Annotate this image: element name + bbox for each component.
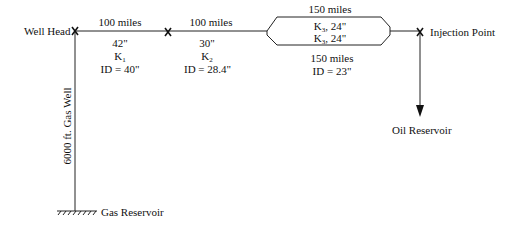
ground-hatch [58,211,96,215]
segment-3-loop-line-1: K3, 24" [298,20,362,32]
gas-reservoir-label: Gas Reservoir [101,206,164,218]
segment-2-id: ID = 28.4" [170,63,245,75]
segment-1-length: 100 miles [90,16,150,28]
arrow-down-icon [416,105,424,117]
segment-3-length-bottom: 150 miles [300,52,364,64]
segment-3-id: ID = 23" [300,65,364,77]
segment-1-id: ID = 40" [85,63,155,75]
injection-point-label: Injection Point [430,26,495,38]
well-head-label: Well Head [24,25,70,37]
segment-3-length-top: 150 miles [298,3,362,15]
segment-2-length: 100 miles [181,16,241,28]
oil-reservoir-label: Oil Reservoir [392,124,452,136]
gas-well-label: 6000 ft. Gas Well [61,81,73,171]
segment-1-od: 42" [90,37,150,49]
x-marker-icon [165,28,171,36]
segment-3-loop-line-2: K3, 24" [298,32,362,44]
segment-2-k: K2 [177,50,237,62]
segment-1-k: K1 [90,50,150,62]
segment-2-od: 30" [177,37,237,49]
